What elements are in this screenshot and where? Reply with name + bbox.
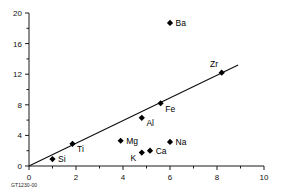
data-point-label: Al (146, 118, 154, 128)
data-point-label: Ba (176, 18, 187, 28)
data-point-label: Fe (165, 104, 175, 114)
data-point-marker (139, 115, 145, 121)
x-tick-label: 6 (168, 173, 173, 182)
data-point-marker (139, 150, 145, 156)
data-point-marker (118, 138, 124, 144)
data-point-marker (167, 139, 173, 145)
y-tick-label: 0 (18, 162, 23, 171)
x-axis-ticks (29, 166, 264, 170)
y-tick-label: 12 (13, 70, 22, 79)
data-point-marker (49, 156, 55, 162)
y-tick-label: 16 (13, 40, 22, 49)
trend-line-group (29, 65, 238, 166)
y-axis-tick-labels: 048121620 (13, 9, 22, 171)
y-tick-label: 20 (13, 9, 22, 18)
data-point-marker (147, 148, 153, 154)
y-axis-ticks (25, 13, 29, 166)
data-point-label: Ca (156, 146, 167, 156)
x-tick-label: 0 (27, 173, 32, 182)
data-point-label: Ti (77, 144, 84, 154)
data-point-label: Mg (126, 136, 138, 146)
plot-canvas: 048121620 0246810 SiTiMgKAlCaFeNaBaZr GT… (0, 0, 284, 195)
axes (29, 13, 264, 166)
y-tick-label: 8 (18, 101, 23, 110)
figure-caption: GT1230-00 (11, 182, 37, 188)
x-tick-label: 8 (215, 173, 220, 182)
x-tick-label: 2 (74, 173, 79, 182)
scatter-plot-figure: 048121620 0246810 SiTiMgKAlCaFeNaBaZr GT… (0, 0, 284, 195)
x-tick-label: 10 (260, 173, 269, 182)
data-point-marker (219, 70, 225, 76)
data-point-label: Zr (210, 59, 218, 69)
data-point-label: Si (58, 154, 66, 164)
x-tick-label: 4 (121, 173, 126, 182)
y-tick-label: 4 (18, 131, 23, 140)
data-point-label: Na (176, 137, 187, 147)
x-axis-tick-labels: 0246810 (27, 173, 269, 182)
data-points-group: SiTiMgKAlCaFeNaBaZr (49, 18, 224, 164)
data-point-label: K (131, 153, 137, 163)
trend-line (29, 65, 238, 166)
data-point-marker (167, 20, 173, 26)
